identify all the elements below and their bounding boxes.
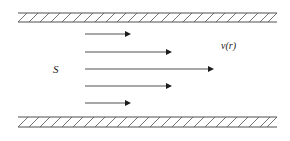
- arrow-head-icon: [125, 100, 131, 106]
- arrow-head-icon: [166, 83, 172, 89]
- top-wall: [18, 13, 277, 22]
- top-wall-hatching: [18, 13, 277, 22]
- arrow-head-icon: [125, 31, 131, 37]
- pipe-flow-figure: S v(r): [0, 0, 290, 141]
- bottom-wall-hatching: [18, 117, 277, 127]
- arrow-head-icon: [208, 66, 214, 72]
- velocity-arrow-3: [85, 66, 214, 72]
- velocity-arrow-2: [85, 49, 172, 55]
- velocity-arrow-1: [85, 31, 131, 37]
- velocity-arrow-5: [85, 100, 131, 106]
- arrow-head-icon: [166, 49, 172, 55]
- cross-section-label: S: [53, 63, 59, 75]
- figure-canvas: S v(r): [0, 0, 290, 141]
- velocity-arrow-4: [85, 83, 172, 89]
- velocity-profile-label: v(r): [221, 40, 237, 52]
- bottom-wall: [18, 117, 277, 127]
